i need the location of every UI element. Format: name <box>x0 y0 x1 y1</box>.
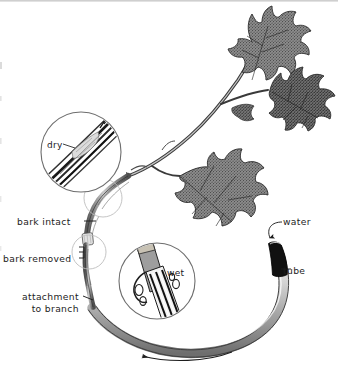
label-attachment-to-branch: attachment to branch <box>22 291 79 314</box>
scan-edge-line <box>0 0 338 2</box>
leaf-blade <box>175 149 268 226</box>
scan-artifacts <box>0 62 2 251</box>
inset-wet <box>119 240 195 344</box>
botanical-diagram: bark intact bark removed attachment to b… <box>0 0 338 373</box>
label-bark-removed: bark removed <box>3 253 71 265</box>
leaf-upper-right <box>269 67 335 131</box>
diagram-canvas <box>0 0 338 373</box>
label-attachment-line1: attachment <box>22 291 79 303</box>
leaf-small-back <box>232 104 254 120</box>
label-attachment-line2: to branch <box>22 303 79 315</box>
branch-twig-mid <box>152 166 180 176</box>
leader-water <box>269 222 282 238</box>
label-water: water <box>283 216 311 228</box>
label-bark-intact: bark intact <box>17 216 71 228</box>
leaf-middle <box>175 149 268 226</box>
label-wet: wet <box>167 268 184 278</box>
label-dry: dry <box>47 140 63 150</box>
leaf-blade <box>269 67 335 131</box>
label-tube: tube <box>283 265 305 277</box>
